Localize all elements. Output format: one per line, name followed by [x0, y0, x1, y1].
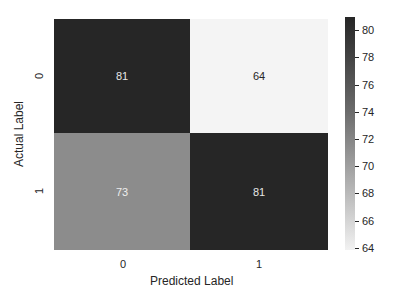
colorbar-tick [355, 57, 359, 58]
heatmap-cell-1-0: 73 [54, 133, 190, 250]
colorbar-label: 66 [362, 215, 374, 227]
cell-value: 73 [116, 186, 128, 198]
cell-value: 64 [253, 70, 265, 82]
x-tick-0: 0 [117, 258, 129, 270]
colorbar [345, 17, 355, 250]
colorbar-tick [355, 248, 359, 249]
colorbar-tick [355, 193, 359, 194]
cell-value: 81 [253, 186, 265, 198]
colorbar-label: 78 [362, 51, 374, 63]
colorbar-label: 64 [362, 242, 374, 254]
heatmap-cell-0-0: 81 [54, 19, 190, 133]
colorbar-label: 74 [362, 106, 374, 118]
heatmap-cell-1-1: 81 [190, 133, 328, 250]
y-axis-label: Actual Label [12, 101, 26, 167]
cell-value: 81 [116, 70, 128, 82]
x-tick-1: 1 [253, 258, 265, 270]
colorbar-tick [355, 85, 359, 86]
colorbar-tick [355, 139, 359, 140]
colorbar-tick [355, 30, 359, 31]
x-axis-label: Predicted Label [150, 274, 233, 288]
colorbar-tick [355, 112, 359, 113]
heatmap-cell-0-1: 64 [190, 19, 328, 133]
colorbar-tick [355, 221, 359, 222]
colorbar-label: 80 [362, 24, 374, 36]
colorbar-tick [355, 166, 359, 167]
colorbar-label: 70 [362, 160, 374, 172]
y-tick-0: 0 [33, 70, 45, 82]
y-tick-1: 1 [33, 185, 45, 197]
colorbar-label: 68 [362, 187, 374, 199]
colorbar-label: 72 [362, 133, 374, 145]
colorbar-label: 76 [362, 79, 374, 91]
